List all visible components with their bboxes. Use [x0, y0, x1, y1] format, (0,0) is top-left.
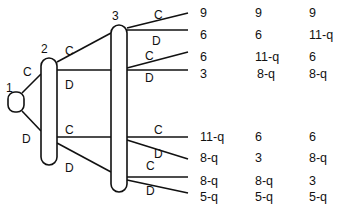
- node-3-shape: [111, 25, 127, 192]
- payoff-8-p1: 5-q: [200, 191, 218, 204]
- edge-label-n2-lower-d: D: [65, 162, 74, 174]
- payoff-7-p2: 8-q: [255, 175, 273, 188]
- payoff-2-p1: 6: [200, 29, 207, 42]
- game-tree-lines: [0, 0, 340, 211]
- edge-label-n1-c: C: [23, 66, 32, 78]
- payoff-4-p2: 8-q: [257, 68, 275, 81]
- payoff-6-p1: 8-q: [200, 152, 218, 165]
- payoff-5-p2: 6: [255, 131, 262, 144]
- payoff-8-p2: 5-q: [255, 191, 273, 204]
- edge-label-n3-5: C: [154, 124, 163, 136]
- edge-label-n1-d: D: [22, 133, 31, 145]
- payoff-8-p3: 5-q: [309, 191, 327, 204]
- edge-label-n3-1: C: [154, 9, 163, 21]
- edge-label-n3-7: C: [146, 160, 155, 172]
- payoff-6-p3: 8-q: [309, 152, 327, 165]
- payoff-6-p2: 3: [255, 152, 262, 165]
- edge-label-n2-upper-c: C: [65, 45, 74, 57]
- edge-label-n3-3: C: [145, 50, 154, 62]
- payoff-3-p1: 6: [200, 51, 207, 64]
- edge-label-n3-4: D: [145, 72, 154, 84]
- node-2-label: 2: [41, 43, 48, 55]
- payoff-7-p1: 8-q: [200, 175, 218, 188]
- node-1-shape: [8, 92, 24, 112]
- edge-label-n2-upper-d: D: [65, 79, 74, 91]
- payoff-5-p3: 6: [309, 131, 316, 144]
- payoff-2-p2: 6: [255, 29, 262, 42]
- payoff-3-p3: 6: [309, 51, 316, 64]
- payoff-1-p2: 9: [255, 7, 262, 20]
- node-2-shape: [41, 58, 57, 165]
- node-3-label: 3: [112, 10, 119, 22]
- edge-label-n3-8: D: [146, 185, 155, 197]
- payoff-7-p3: 3: [309, 175, 316, 188]
- payoff-3-p2: 11-q: [255, 51, 279, 64]
- payoff-4-p1: 3: [200, 68, 207, 81]
- payoff-5-p1: 11-q: [200, 131, 224, 144]
- node-1-label: 1: [6, 82, 13, 94]
- edge-label-n3-2: D: [152, 35, 161, 47]
- edge-label-n2-lower-c: C: [65, 124, 74, 136]
- payoff-2-p3: 11-q: [309, 29, 333, 42]
- payoff-1-p1: 9: [200, 7, 207, 20]
- edge-label-n3-6: D: [154, 148, 163, 160]
- payoff-1-p3: 9: [309, 7, 316, 20]
- payoff-4-p3: 8-q: [309, 68, 327, 81]
